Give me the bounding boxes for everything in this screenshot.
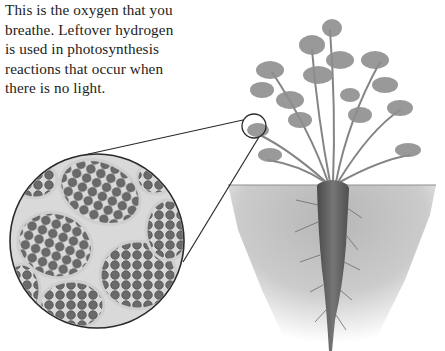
carrot-illustration <box>0 0 445 351</box>
magnified-leaf-cells <box>4 147 190 329</box>
